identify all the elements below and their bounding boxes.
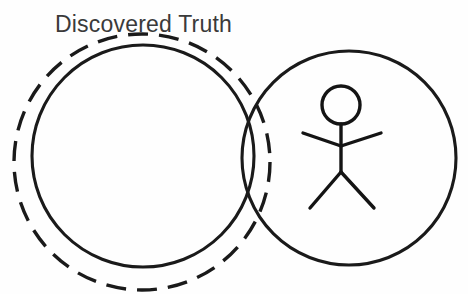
diagram-canvas: Discovered Truth [0,0,468,294]
discovered-truth-label: Discovered Truth [55,11,232,37]
stick-figure [303,86,381,208]
stick-figure-arm-right [341,133,381,146]
stick-figure-head-icon [322,86,360,124]
stick-figure-leg-left [310,172,341,208]
diagram-svg: Discovered Truth [0,0,468,294]
person-circle [242,51,456,265]
total-truth-dashed-circle [14,34,270,290]
discovered-truth-circle [32,45,254,267]
stick-figure-arm-left [303,133,341,146]
stick-figure-leg-right [341,172,374,208]
